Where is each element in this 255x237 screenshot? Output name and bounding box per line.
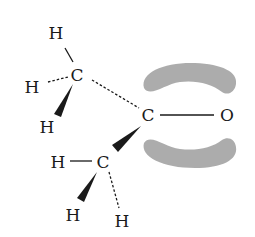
bonds-and-lobes bbox=[0, 0, 255, 237]
bond-c1-carbonyl-dashed bbox=[92, 80, 139, 108]
molecule-diagram: H C H H C O H C H H bbox=[0, 0, 255, 237]
atom-c-methyl-upper: C bbox=[70, 67, 83, 84]
upper-lone-pair-lobe bbox=[144, 63, 237, 94]
atom-h-top: H bbox=[49, 25, 64, 42]
atom-o-carbonyl: O bbox=[220, 107, 234, 124]
atom-h-left-lower: H bbox=[51, 154, 66, 171]
bond-carbonyl-c2-wedge bbox=[112, 126, 141, 152]
lower-lone-pair-lobe bbox=[144, 138, 237, 168]
bond-c1-h-wedge bbox=[54, 84, 73, 117]
bond-c2-h-dashed bbox=[109, 172, 119, 208]
bond-c2-h-wedge bbox=[77, 172, 97, 202]
atom-c-methyl-lower: C bbox=[96, 154, 109, 171]
atom-c-carbonyl: C bbox=[141, 107, 154, 124]
atom-h-wedge-lower: H bbox=[66, 207, 81, 224]
atom-h-left-upper: H bbox=[25, 79, 40, 96]
bond-c1-h-top bbox=[65, 48, 73, 62]
atom-h-wedge-upper: H bbox=[40, 119, 55, 136]
bond-c1-h-left-dashed bbox=[48, 77, 68, 82]
atom-h-dash-lower: H bbox=[115, 213, 130, 230]
